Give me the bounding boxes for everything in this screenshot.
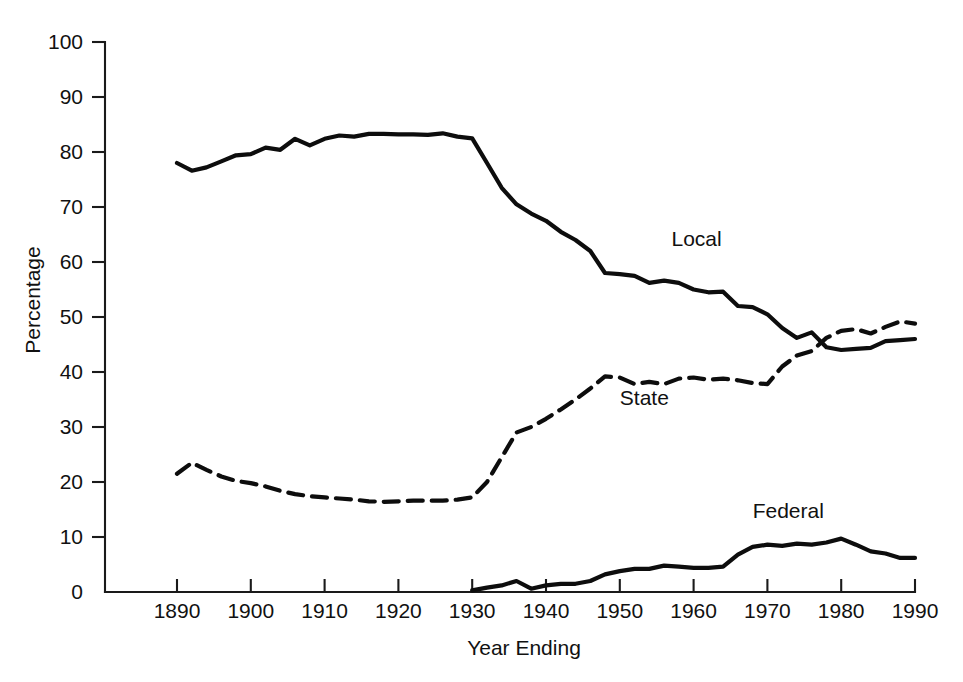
series-labels: LocalStateFederal (620, 227, 824, 522)
chart-container: 0102030405060708090100 18901900191019201… (0, 0, 963, 682)
x-tick-label-1980: 1980 (818, 599, 865, 622)
y-tick-label-70: 70 (60, 195, 83, 218)
x-tick-label-1960: 1960 (670, 599, 717, 622)
y-tick-label-50: 50 (60, 305, 83, 328)
y-tick-label-30: 30 (60, 415, 83, 438)
y-tick-label-90: 90 (60, 85, 83, 108)
y-tick-label-0: 0 (71, 580, 83, 603)
series-label-local: Local (671, 227, 721, 250)
series-label-federal: Federal (753, 499, 824, 522)
x-tick-label-1970: 1970 (744, 599, 791, 622)
x-tick-label-1940: 1940 (523, 599, 570, 622)
y-tick-label-80: 80 (60, 140, 83, 163)
series-line-state (177, 321, 915, 501)
x-tick-label-1950: 1950 (596, 599, 643, 622)
x-tick-label-1900: 1900 (227, 599, 274, 622)
y-tick-label-100: 100 (48, 30, 83, 53)
y-axis: 0102030405060708090100 (48, 30, 105, 603)
x-tick-label-1930: 1930 (449, 599, 496, 622)
y-tick-label-60: 60 (60, 250, 83, 273)
x-tick-label-1890: 1890 (154, 599, 201, 622)
line-chart: 0102030405060708090100 18901900191019201… (0, 0, 963, 682)
series-line-local (177, 133, 915, 350)
series-layer (177, 133, 915, 590)
x-tick-label-1990: 1990 (892, 599, 939, 622)
x-axis-title: Year Ending (467, 636, 581, 659)
y-tick-label-40: 40 (60, 360, 83, 383)
y-tick-label-20: 20 (60, 470, 83, 493)
y-tick-label-10: 10 (60, 525, 83, 548)
series-label-state: State (620, 386, 669, 409)
x-tick-label-1910: 1910 (301, 599, 348, 622)
x-tick-label-1920: 1920 (375, 599, 422, 622)
y-axis-title: Percentage (21, 246, 44, 353)
